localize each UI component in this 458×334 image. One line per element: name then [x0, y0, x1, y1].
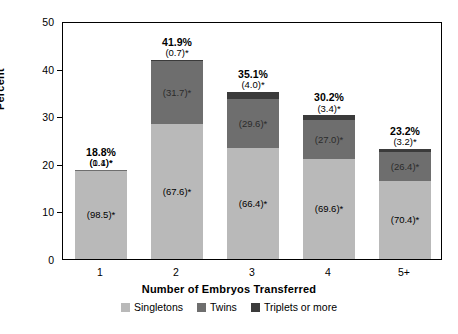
y-tick-label: 20	[14, 159, 54, 171]
legend-swatch-icon	[197, 303, 206, 312]
y-tick-label: 30	[14, 111, 54, 123]
legend-label: Triplets or more	[264, 301, 337, 313]
legend-label: Singletons	[134, 301, 183, 313]
plot-area: 18.8%(0.1)*(1.4)*(98.5)*41.9%(0.7)*(31.7…	[62, 22, 442, 260]
segment-value-label: (69.6)*	[315, 204, 344, 214]
bar-4[interactable]: 30.2%(3.4)*(27.0)*(69.6)*	[303, 115, 355, 259]
bar-segment-triplets-or-more[interactable]	[227, 92, 279, 99]
segment-value-label: (70.4)*	[391, 215, 420, 225]
segment-value-label: (3.4)*	[317, 104, 340, 114]
bar-segment-twins[interactable]: (31.7)*	[151, 61, 203, 124]
bar-segment-singletons[interactable]: (67.6)*	[151, 124, 203, 259]
segment-value-label: (27.0)*	[315, 135, 344, 145]
segment-value-label: (4.0)*	[241, 80, 264, 90]
legend-swatch-icon	[251, 303, 260, 312]
bar-segment-twins[interactable]: (26.4)*	[379, 152, 431, 181]
y-tick-label: 0	[14, 254, 54, 266]
segment-value-label: (67.6)*	[163, 187, 192, 197]
bar-total-label: 30.2%	[314, 91, 344, 103]
legend-item-twins[interactable]: Twins	[197, 301, 237, 313]
x-tick-label: 5+	[374, 266, 434, 278]
bar-segment-singletons[interactable]: (98.5)*	[75, 171, 127, 259]
bar-2[interactable]: 41.9%(0.7)*(31.7)*(67.6)*	[151, 60, 203, 259]
segment-value-label: (66.4)*	[239, 199, 268, 209]
bar-segment-singletons[interactable]: (70.4)*	[379, 181, 431, 259]
y-tick-label: 10	[14, 206, 54, 218]
bar-total-label: 18.8%	[86, 146, 116, 158]
legend-label: Twins	[210, 301, 237, 313]
chart-legend: SingletonsTwinsTriplets or more	[0, 301, 458, 313]
y-tick-label: 40	[14, 64, 54, 76]
bar-total-label: 35.1%	[238, 68, 268, 80]
segment-value-label: (31.7)*	[163, 88, 192, 98]
bar-segment-twins[interactable]: (29.6)*	[227, 99, 279, 148]
y-axis-title: Percent	[0, 68, 6, 110]
bar-3[interactable]: 35.1%(4.0)*(29.6)*(66.4)*	[227, 92, 279, 259]
bar-segment-singletons[interactable]: (69.6)*	[303, 159, 355, 259]
bar-total-label: 23.2%	[390, 125, 420, 137]
x-tick-label: 4	[298, 266, 358, 278]
legend-item-singletons[interactable]: Singletons	[121, 301, 183, 313]
x-tick-label: 2	[146, 266, 206, 278]
bar-total-label: 41.9%	[162, 36, 192, 48]
segment-value-label: (3.2)*	[393, 137, 416, 147]
segment-value-label: (29.6)*	[239, 119, 268, 129]
segment-value-label: (0.7)*	[165, 48, 188, 58]
segment-value-label: (98.5)*	[87, 210, 116, 220]
x-axis-title: Number of Embryos Transferred	[0, 283, 458, 295]
legend-swatch-icon	[121, 303, 130, 312]
legend-item-triplets-or-more[interactable]: Triplets or more	[251, 301, 337, 313]
bar-1[interactable]: 18.8%(0.1)*(1.4)*(98.5)*	[75, 170, 127, 259]
segment-value-label: (26.4)*	[391, 162, 420, 172]
y-tick-label: 50	[14, 16, 54, 28]
chart-container: Percent 01020304050 18.8%(0.1)*(1.4)*(98…	[0, 0, 458, 334]
bar-segment-twins[interactable]: (27.0)*	[303, 120, 355, 159]
segment-value-label: (1.4)*	[89, 158, 112, 168]
bar-5plus[interactable]: 23.2%(3.2)*(26.4)*(70.4)*	[379, 149, 431, 259]
segment-value-label: (0.1)*	[89, 158, 112, 168]
x-tick-label: 1	[70, 266, 130, 278]
x-tick-label: 3	[222, 266, 282, 278]
bar-segment-singletons[interactable]: (66.4)*	[227, 148, 279, 259]
